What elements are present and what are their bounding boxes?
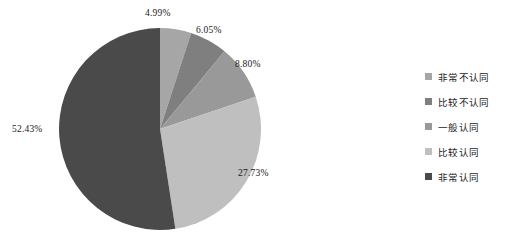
legend-item[interactable]: 比较不认同	[425, 89, 505, 114]
pie-value-label-2: 8.80%	[235, 59, 261, 69]
pie-value-label-4: 52.43%	[12, 124, 43, 134]
pie-slice[interactable]	[59, 28, 175, 230]
pie-value-label-1: 6.05%	[196, 25, 222, 35]
pie-value-label-3: 27.73%	[238, 168, 269, 178]
legend-item-label: 比较不认同	[438, 95, 490, 109]
legend-item[interactable]: 非常认同	[425, 164, 505, 189]
pie-value-label-0: 4.99%	[145, 8, 171, 18]
legend-swatch-icon	[425, 123, 432, 130]
legend-item[interactable]: 一般认同	[425, 114, 505, 139]
legend-item[interactable]: 非常不认同	[425, 64, 505, 89]
legend-item-label: 比较认同	[438, 145, 479, 159]
legend-swatch-icon	[425, 148, 432, 155]
pie-svg	[58, 27, 262, 231]
legend-swatch-icon	[425, 73, 432, 80]
chart-legend: 非常不认同比较不认同一般认同比较认同非常认同	[425, 64, 505, 189]
legend-item[interactable]: 比较认同	[425, 139, 505, 164]
legend-item-label: 一般认同	[438, 120, 479, 134]
legend-item-label: 非常不认同	[438, 70, 490, 84]
pie-slice-group	[59, 28, 261, 230]
pie-chart-figure: 4.99% 6.05% 8.80% 27.73% 52.43% 非常不认同比较不…	[0, 0, 507, 234]
legend-swatch-icon	[425, 98, 432, 105]
legend-swatch-icon	[425, 173, 432, 180]
legend-item-label: 非常认同	[438, 170, 479, 184]
pie-chart-plot-area	[58, 27, 262, 231]
